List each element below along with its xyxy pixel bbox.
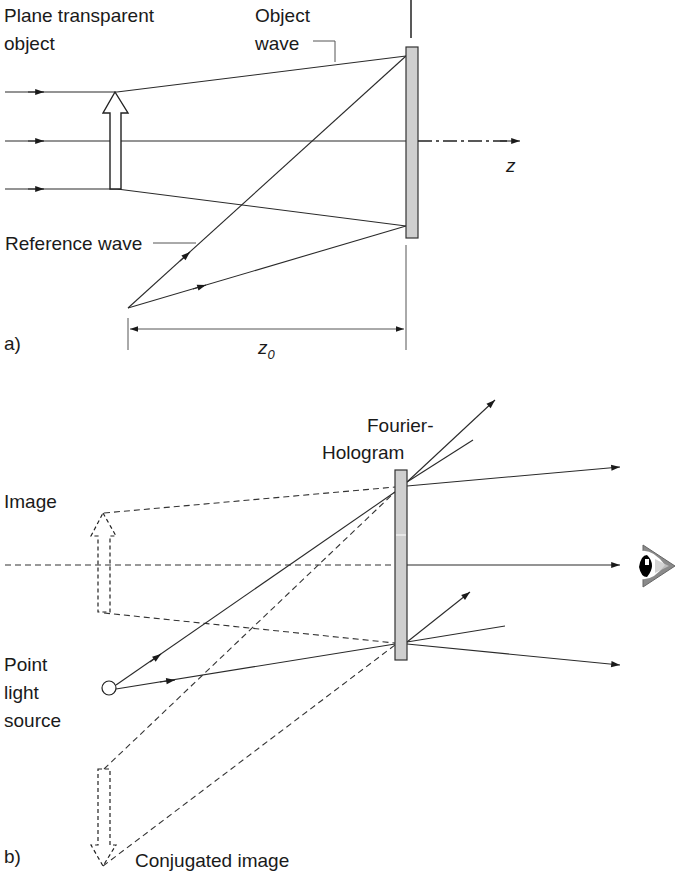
virtual-image-arrow-icon (91, 513, 116, 612)
label-point: Point (4, 654, 48, 675)
panel-a: z Plane transparent object Object wave R… (4, 0, 520, 362)
conjugated-image-arrow-icon (91, 769, 116, 866)
label-distance-z0: z0 (257, 337, 276, 362)
label-fourier: Fourier- (367, 415, 434, 436)
label-source: source (4, 710, 61, 731)
label-plane-transparent: Plane transparent (4, 5, 155, 26)
label-image: Image (4, 491, 57, 512)
hologram-plate-a (406, 47, 418, 238)
label-reference-wave: Reference wave (5, 233, 142, 254)
axis-label-z: z (505, 155, 516, 176)
label-object: object (4, 33, 55, 54)
panel-b: Fourier- Hologram Image Point light sour… (4, 400, 675, 871)
label-conjugated-image: Conjugated image (135, 850, 289, 871)
panel-tag-b: b) (4, 846, 21, 867)
diffracted-rays (407, 400, 620, 665)
incoming-rays (5, 92, 406, 189)
label-light: light (4, 682, 40, 703)
label-object-wave-1: Object (255, 5, 311, 26)
label-hologram: Hologram (322, 442, 404, 463)
label-object-wave-2: wave (254, 33, 299, 54)
hologram-plate-b (395, 470, 407, 660)
reconstruction-rays (116, 492, 395, 689)
panel-tag-a: a) (4, 333, 21, 354)
point-light-source-icon (102, 681, 116, 695)
reference-wave-rays (128, 56, 406, 308)
holography-diagram: z Plane transparent object Object wave R… (0, 0, 678, 883)
eye-icon (639, 545, 675, 587)
